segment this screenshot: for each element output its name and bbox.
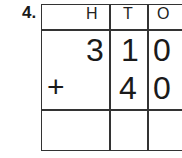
digit-row1-hundreds: 3 — [86, 34, 104, 66]
digit-row2-ones: 0 — [153, 72, 171, 104]
digit-row1-ones: 0 — [153, 34, 171, 66]
digit-row2-tens: 4 — [119, 72, 137, 104]
header-tens: T — [123, 5, 133, 23]
question-number: 4. — [22, 3, 36, 23]
plus-operator: + — [47, 72, 65, 102]
header-divider — [41, 29, 182, 31]
digit-row1-tens: 1 — [121, 34, 139, 66]
header-ones: O — [157, 5, 169, 23]
answer-cell-hundreds[interactable] — [43, 111, 109, 150]
header-hundreds: H — [86, 5, 98, 23]
answer-cell-ones[interactable] — [149, 111, 182, 150]
answer-cell-tens[interactable] — [111, 111, 147, 150]
